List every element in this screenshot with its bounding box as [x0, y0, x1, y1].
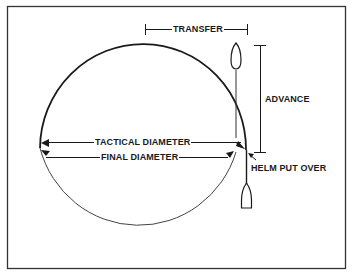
ship-hull-top-icon — [231, 43, 241, 69]
tactical-diameter-label: TACTICAL DIAMETER — [94, 137, 191, 147]
transfer-label: TRANSFER — [172, 24, 224, 34]
turning-circle-upper-arc — [40, 44, 246, 150]
helm-put-over-label: HELM PUT OVER — [250, 163, 327, 173]
ship-hull-bottom-icon — [242, 183, 252, 208]
final-diameter-right-arrow-icon — [226, 151, 234, 158]
tactical-diameter-left-arrow-icon — [41, 139, 49, 147]
final-diameter-label: FINAL DIAMETER — [100, 152, 179, 162]
advance-label: ADVANCE — [264, 94, 311, 104]
